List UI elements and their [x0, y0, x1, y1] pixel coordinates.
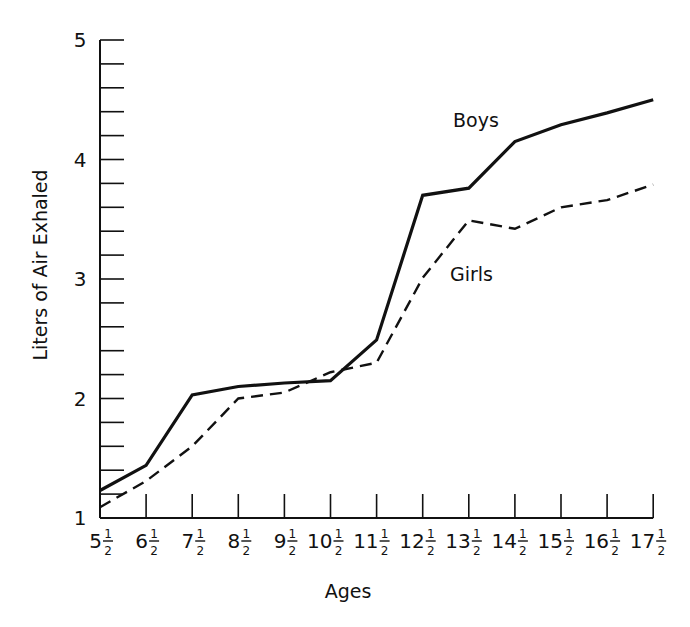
- y-tick-label: 2: [74, 387, 87, 411]
- x-tick-label: 1312: [445, 527, 481, 558]
- svg-text:2: 2: [381, 544, 389, 558]
- svg-text:16: 16: [584, 529, 609, 553]
- y-tick-label: 5: [74, 28, 87, 52]
- x-tick-label: 1412: [491, 527, 527, 558]
- svg-text:1: 1: [150, 527, 158, 541]
- svg-text:1: 1: [196, 527, 204, 541]
- svg-text:1: 1: [289, 527, 297, 541]
- x-tick-label: 1212: [399, 527, 435, 558]
- series-lines: [100, 100, 653, 507]
- svg-text:1: 1: [473, 527, 481, 541]
- svg-text:2: 2: [473, 544, 481, 558]
- svg-text:17: 17: [630, 529, 655, 553]
- svg-text:1: 1: [335, 527, 343, 541]
- svg-text:14: 14: [491, 529, 516, 553]
- svg-text:2: 2: [196, 544, 204, 558]
- svg-text:2: 2: [335, 544, 343, 558]
- svg-text:1: 1: [381, 527, 389, 541]
- svg-text:2: 2: [242, 544, 250, 558]
- svg-text:1: 1: [427, 527, 435, 541]
- x-tick-label: 1612: [584, 527, 620, 558]
- boys-label: Boys: [453, 109, 499, 131]
- svg-text:8: 8: [228, 529, 241, 553]
- svg-text:11: 11: [353, 529, 378, 553]
- girls-line: [100, 185, 653, 508]
- svg-text:1: 1: [565, 527, 573, 541]
- svg-text:1: 1: [519, 527, 527, 541]
- svg-text:10: 10: [307, 529, 332, 553]
- y-tick-label: 1: [74, 506, 87, 530]
- svg-text:9: 9: [274, 529, 287, 553]
- y-axis: 12345: [74, 28, 124, 530]
- svg-text:5: 5: [89, 529, 102, 553]
- svg-text:2: 2: [565, 544, 573, 558]
- x-axis: 5126127128129121012111212121312141215121…: [89, 494, 666, 558]
- x-axis-title: Ages: [325, 580, 372, 602]
- svg-text:7: 7: [181, 529, 194, 553]
- svg-text:1: 1: [242, 527, 250, 541]
- svg-text:1: 1: [611, 527, 619, 541]
- x-tick-label: 1512: [538, 527, 574, 558]
- svg-text:2: 2: [611, 544, 619, 558]
- svg-text:2: 2: [427, 544, 435, 558]
- x-tick-label: 1112: [353, 527, 389, 558]
- y-tick-label: 3: [74, 267, 87, 291]
- svg-text:2: 2: [657, 544, 665, 558]
- x-tick-label: 712: [181, 527, 205, 558]
- svg-text:12: 12: [399, 529, 424, 553]
- svg-text:13: 13: [445, 529, 470, 553]
- svg-text:2: 2: [150, 544, 158, 558]
- x-tick-label: 512: [89, 527, 113, 558]
- svg-text:6: 6: [135, 529, 148, 553]
- x-tick-label: 612: [135, 527, 159, 558]
- svg-text:2: 2: [289, 544, 297, 558]
- y-axis-title: Liters of Air Exhaled: [29, 169, 51, 360]
- girls-label: Girls: [450, 263, 493, 285]
- svg-text:1: 1: [104, 527, 112, 541]
- x-tick-label: 812: [228, 527, 252, 558]
- x-tick-label: 912: [274, 527, 298, 558]
- svg-text:1: 1: [657, 527, 665, 541]
- svg-text:15: 15: [538, 529, 563, 553]
- line-chart: 12345 5126127128129121012111212121312141…: [0, 0, 690, 627]
- x-tick-label: 1712: [630, 527, 666, 558]
- boys-line: [100, 100, 653, 491]
- svg-text:2: 2: [104, 544, 112, 558]
- x-tick-label: 1012: [307, 527, 343, 558]
- y-tick-label: 4: [74, 148, 87, 172]
- svg-text:2: 2: [519, 544, 527, 558]
